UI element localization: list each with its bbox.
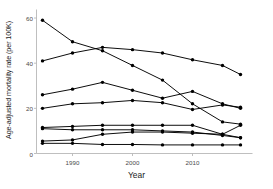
data-series	[41, 99, 242, 111]
data-point-marker	[131, 89, 134, 92]
data-point-marker	[161, 124, 164, 127]
data-point-marker	[191, 108, 194, 111]
data-point-marker	[41, 93, 44, 96]
plot-area	[0, 0, 273, 189]
data-point-marker	[239, 106, 242, 109]
data-series	[41, 81, 242, 110]
data-point-marker	[131, 143, 134, 146]
data-point-marker	[101, 81, 104, 84]
data-point-marker	[101, 46, 104, 49]
data-point-marker	[41, 59, 44, 62]
data-point-marker	[239, 136, 242, 139]
data-point-marker	[221, 143, 224, 146]
data-point-marker	[161, 51, 164, 54]
data-point-marker	[131, 99, 134, 102]
data-point-marker	[221, 133, 224, 136]
data-series	[41, 142, 242, 147]
data-point-marker	[221, 64, 224, 67]
data-point-marker	[191, 58, 194, 61]
data-point-marker	[239, 124, 242, 127]
data-point-marker	[71, 102, 74, 105]
data-point-marker	[131, 48, 134, 51]
data-point-marker	[41, 107, 44, 110]
data-point-marker	[41, 19, 44, 22]
data-point-marker	[191, 102, 194, 105]
data-point-marker	[71, 87, 74, 90]
chart-figure: Age-adjusted mortality rate (per 100K) Y…	[0, 0, 273, 189]
data-point-marker	[161, 130, 164, 133]
data-point-marker	[221, 120, 224, 123]
data-point-marker	[101, 124, 104, 127]
data-point-marker	[131, 64, 134, 67]
data-point-marker	[191, 90, 194, 93]
data-point-marker	[191, 124, 194, 127]
data-point-marker	[221, 103, 224, 106]
data-point-marker	[191, 143, 194, 146]
data-point-marker	[71, 51, 74, 54]
data-series	[41, 127, 242, 139]
data-point-marker	[161, 101, 164, 104]
data-series	[41, 130, 242, 142]
data-point-marker	[41, 127, 44, 130]
data-point-marker	[41, 142, 44, 145]
data-series	[41, 19, 242, 126]
data-point-marker	[101, 101, 104, 104]
data-point-marker	[71, 125, 74, 128]
data-point-marker	[101, 128, 104, 131]
data-point-marker	[71, 138, 74, 141]
data-point-marker	[239, 143, 242, 146]
data-point-marker	[131, 130, 134, 133]
data-point-marker	[131, 124, 134, 127]
data-point-marker	[101, 49, 104, 52]
data-point-marker	[101, 133, 104, 136]
data-point-marker	[71, 142, 74, 145]
data-point-marker	[101, 143, 104, 146]
data-point-marker	[71, 40, 74, 43]
data-point-marker	[161, 96, 164, 99]
data-point-marker	[161, 143, 164, 146]
data-series	[41, 46, 242, 77]
data-point-marker	[71, 128, 74, 131]
series-line	[43, 20, 241, 124]
data-point-marker	[161, 78, 164, 81]
data-point-marker	[191, 131, 194, 134]
data-point-marker	[239, 73, 242, 76]
